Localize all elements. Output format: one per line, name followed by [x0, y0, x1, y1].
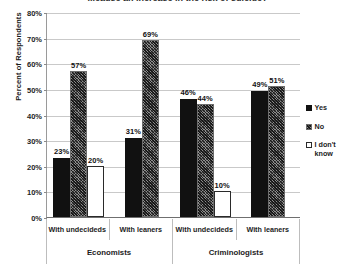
bar-slot: 23%: [53, 13, 70, 217]
legend-swatch-idk-icon: [306, 142, 312, 148]
bar-no[interactable]: 69%: [142, 40, 159, 217]
bar-slot: 46%: [180, 13, 197, 217]
bar-value-label: 31%: [126, 127, 141, 136]
legend-label: Yes: [315, 104, 327, 113]
plot-area: 23%57%20%31%69%46%44%10%49%51%: [46, 13, 300, 218]
bar-slot: 49%: [251, 13, 268, 217]
x-axis-category-label: With undecideds: [46, 219, 110, 240]
x-axis-category-labels: With undecidedsWith leanersWith undecide…: [46, 219, 300, 240]
chart-title: ...cause an increase in the risk of suic…: [0, 0, 355, 3]
bar-idk[interactable]: 10%: [214, 191, 231, 217]
bar-slot: 69%: [142, 13, 159, 217]
bar-slot: 31%: [125, 13, 142, 217]
bar-value-label: 23%: [54, 147, 69, 156]
bar-group: 49%51%: [237, 13, 300, 217]
bar-value-label: 44%: [198, 94, 213, 103]
y-axis-tick-label: 20%: [18, 162, 42, 171]
y-axis-tick-label: 0%: [18, 214, 42, 223]
bar-slot: 57%: [70, 13, 87, 217]
x-axis-supercategory-labels: EconomistsCriminologists: [46, 240, 300, 264]
y-axis-tick-label: 40%: [18, 111, 42, 120]
bar-no[interactable]: 57%: [70, 71, 87, 217]
x-axis-category-label: With leaners: [237, 219, 301, 240]
bar-groups: 23%57%20%31%69%46%44%10%49%51%: [47, 13, 300, 217]
y-axis-tick-labels: 80%70%60%50%40%30%20%10%0%: [14, 0, 42, 266]
bar-slot: 44%: [197, 13, 214, 217]
bar-no[interactable]: 51%: [268, 86, 285, 217]
y-axis-tick-label: 50%: [18, 85, 42, 94]
bar-value-label: 10%: [215, 181, 230, 190]
x-axis-supercategory-label: Criminologists: [173, 240, 300, 264]
bar-yes[interactable]: 46%: [180, 99, 197, 217]
x-axis-category-label: With undecideds: [173, 219, 237, 240]
legend-label: No: [315, 123, 325, 132]
legend-item[interactable]: No: [306, 123, 355, 132]
legend-swatch-no-icon: [306, 124, 312, 130]
bar-value-label: 69%: [143, 30, 158, 39]
bar-slot: 51%: [268, 13, 285, 217]
bar-group: 23%57%20%: [47, 13, 110, 217]
bar-group: 46%44%10%: [174, 13, 237, 217]
legend-item[interactable]: I don't know: [306, 141, 355, 158]
bar-value-label: 49%: [252, 80, 267, 89]
bar-yes[interactable]: 23%: [53, 158, 70, 217]
bar-no[interactable]: 44%: [197, 104, 214, 217]
bar-idk[interactable]: 20%: [87, 166, 104, 217]
y-axis-tick-label: 70%: [18, 34, 42, 43]
legend-item[interactable]: Yes: [306, 104, 355, 113]
bar-yes[interactable]: 31%: [125, 138, 142, 217]
legend-label: I don't know: [315, 141, 355, 158]
y-axis-tick-label: 30%: [18, 137, 42, 146]
legend: YesNoI don't know: [306, 104, 355, 168]
bar-yes[interactable]: 49%: [251, 91, 268, 217]
y-axis-tick-label: 60%: [18, 60, 42, 69]
y-axis-tick-label: 80%: [18, 9, 42, 18]
bar-value-label: 51%: [269, 76, 284, 85]
x-axis-category-label: With leaners: [110, 219, 174, 240]
y-axis-tick-label: 10%: [18, 188, 42, 197]
bar-value-label: 57%: [71, 61, 86, 70]
bar-slot: 10%: [214, 13, 231, 217]
bar-value-label: 20%: [88, 156, 103, 165]
group-separator: [299, 13, 300, 217]
x-axis: With undecidedsWith leanersWith undecide…: [46, 219, 300, 266]
bar-group: 31%69%: [110, 13, 173, 217]
x-axis-supercategory-label: Economists: [46, 240, 173, 264]
bar-value-label: 46%: [181, 88, 196, 97]
bar-slot: 20%: [87, 13, 104, 217]
legend-swatch-yes-icon: [306, 105, 312, 111]
